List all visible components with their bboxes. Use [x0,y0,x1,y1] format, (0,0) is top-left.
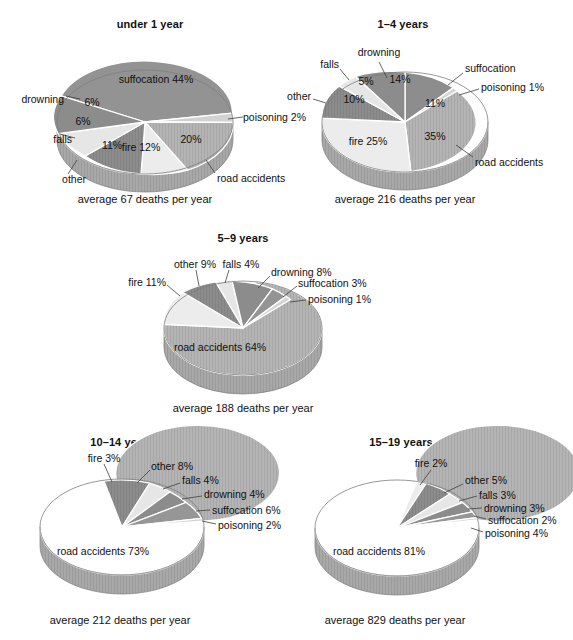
chart-caption: average 188 deaths per year [153,402,333,414]
chart-panel-15-19-years: 15–19 years [283,428,573,640]
slice-label-poisoning: poisoning 1% [308,293,371,305]
slice-label-falls: falls [53,133,72,145]
chart-panel-under-1-year: under 1 year [0,0,290,215]
slice-pct-other: 10% [343,94,364,106]
chart-caption: average 212 deaths per year [30,614,210,626]
chart-panel-5-9-years: 5–9 years [140,220,440,425]
slice-label-road-accidents: road accidents 81% [333,546,425,558]
slice-label-falls: falls 3% [479,489,516,501]
slice-label-falls: falls 4% [223,258,260,270]
slice-label-other: other [62,173,86,185]
chart-caption: average 829 deaths per year [305,614,485,626]
slice-label-other: other 8% [151,460,193,472]
slice-label-drowning: drowning [358,46,401,58]
chart-caption: average 67 deaths per year [55,193,235,205]
slice-label-other: other 9% [174,258,216,270]
slice-label-suffocation: suffocation 44% [119,74,194,86]
slice-pct-drowning: 14% [389,74,410,86]
slice-label-other: other 5% [465,474,507,486]
chart-panel-1-4-years: 1–4 years [283,0,573,215]
slice-label-road-accidents: road accidents 73% [57,546,149,558]
slice-label-fire: fire 3% [88,452,121,464]
slice-pct-road-accidents: 35% [424,131,445,143]
slice-pct-road-accidents: 20% [180,134,201,146]
slice-label-suffocation: suffocation 6% [212,504,281,516]
slice-pct-drowning: 6% [84,97,99,109]
slice-label-other: other [287,90,311,102]
slice-label-fire: fire 11% [128,276,166,288]
slice-label-drowning: drowning [21,93,64,105]
slice-label-road-accidents: road accidents [475,156,543,168]
slice-label-poisoning: poisoning 4% [485,527,548,539]
slice-label-falls: falls 4% [182,474,219,486]
slice-label-fire: fire 12% [122,142,161,154]
slice-pct-suffocation: 11% [425,98,445,110]
pie-10-14-years [0,428,290,640]
slice-label-poisoning: poisoning 2% [218,519,281,531]
slice-label-road-accidents: road accidents [217,172,285,184]
pie-chart-figure: under 1 year [0,0,573,640]
slice-label-road-accidents: road accidents 64% [174,342,266,354]
slice-pct-falls: 6% [75,116,90,128]
slice-label-fire: fire 25% [349,136,388,148]
slice-pct-other: 11% [102,140,122,152]
slice-label-drowning: drowning 4% [204,488,265,500]
slice-label-fire: fire 2% [415,457,448,469]
slice-label-drowning: drowning 3% [484,502,545,514]
slice-label-suffocation: suffocation 2% [488,514,557,526]
slice-label-falls: falls [320,58,339,70]
pie-5-9-years [140,220,440,425]
chart-caption: average 216 deaths per year [315,193,495,205]
slice-pct-falls: 5% [358,76,373,88]
chart-panel-10-14-years: 10–14 years [0,428,290,640]
slice-label-suffocation: suffocation 3% [298,277,367,289]
slice-label-suffocation: suffocation [465,62,516,74]
slice-label-poisoning: poisoning 1% [481,81,544,93]
